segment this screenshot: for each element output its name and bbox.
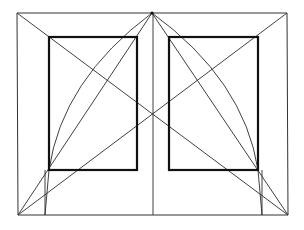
outer-frame-left (17, 13, 18, 215)
geometric-construction-diagram (0, 0, 304, 230)
vertical-lines (45, 13, 262, 215)
diagonals (17, 13, 288, 215)
arcs (45, 13, 262, 215)
apex-point (150, 11, 153, 14)
left-inner-panel (49, 37, 137, 170)
apex-to-bottom-right-line (152, 13, 288, 215)
outer-frame-right (287, 13, 288, 215)
inner-panels (49, 37, 258, 170)
apex-to-bottom-left-line (18, 13, 152, 215)
